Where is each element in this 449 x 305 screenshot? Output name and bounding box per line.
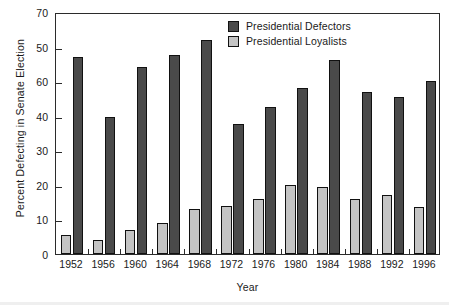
bar-loyalist-1976	[253, 199, 264, 254]
y-axis-tick	[56, 83, 62, 84]
bar-loyalist-1992	[382, 195, 393, 254]
x-axis-tick-label: 1960	[124, 258, 147, 270]
legend-label-loyalists: Presidential Loyalists	[246, 35, 347, 47]
x-axis-tick	[377, 249, 378, 254]
bar-defector-1980	[297, 88, 308, 254]
x-axis-tick	[409, 249, 410, 254]
bar-loyalist-1964	[157, 223, 168, 254]
y-axis-tick	[56, 118, 62, 119]
y-axis-tick	[56, 49, 62, 50]
x-axis-tick	[152, 249, 153, 254]
x-axis-title: Year	[55, 281, 440, 293]
x-axis-tick	[345, 249, 346, 254]
bar-loyalist-1972	[221, 206, 232, 254]
bar-defector-1960	[137, 67, 148, 254]
x-axis-tick	[184, 249, 185, 254]
x-axis-tick-label: 1984	[316, 258, 339, 270]
bar-defector-1952	[73, 57, 84, 254]
bar-defector-1984	[329, 60, 340, 254]
chart-figure: Percent Defecting in Senate Election Yea…	[0, 0, 449, 305]
bar-loyalist-1956	[93, 240, 104, 254]
x-axis-tick-label: 1992	[380, 258, 403, 270]
x-axis-tick-label: 1980	[284, 258, 307, 270]
y-axis-tick	[56, 152, 62, 153]
bar-loyalist-1952	[61, 235, 72, 254]
plot-area: Presidential Defectors Presidential Loya…	[55, 13, 440, 255]
bar-defector-1988	[362, 92, 373, 254]
x-axis-tick	[120, 249, 121, 254]
legend-item-defectors: Presidential Defectors	[228, 20, 351, 32]
legend-swatch-defectors-icon	[228, 21, 239, 32]
x-axis-tick-label: 1972	[220, 258, 243, 270]
bar-defector-1996	[426, 81, 437, 254]
bar-defector-1956	[105, 117, 116, 254]
y-axis-tick-label: 70	[22, 7, 48, 19]
x-axis-tick	[88, 249, 89, 254]
bar-loyalist-1968	[189, 209, 200, 254]
x-axis-tick	[249, 249, 250, 254]
y-axis-tick	[56, 221, 62, 222]
bar-loyalist-1988	[350, 199, 361, 254]
bar-loyalist-1980	[285, 185, 296, 254]
bar-loyalist-1960	[125, 230, 136, 254]
x-axis-tick	[313, 249, 314, 254]
y-axis-tick-label: 50	[22, 42, 48, 54]
y-axis-tick-label: 10	[22, 214, 48, 226]
x-axis-tick-label: 1996	[412, 258, 435, 270]
legend-label-defectors: Presidential Defectors	[246, 20, 351, 32]
y-axis-tick-label: 60	[22, 76, 48, 88]
x-axis-tick-label: 1952	[59, 258, 82, 270]
legend-swatch-loyalists-icon	[228, 36, 239, 47]
y-axis-tick-label: 20	[22, 180, 48, 192]
x-axis-tick-label: 1988	[348, 258, 371, 270]
x-axis-tick	[216, 249, 217, 254]
x-axis-tick-label: 1976	[252, 258, 275, 270]
x-axis-tick	[281, 249, 282, 254]
y-axis-tick	[56, 187, 62, 188]
bar-loyalist-1996	[414, 207, 425, 254]
bar-defector-1968	[201, 40, 212, 254]
x-axis-tick-label: 1956	[91, 258, 114, 270]
bar-defector-1964	[169, 55, 180, 254]
y-axis-tick-label: 0	[22, 249, 48, 261]
legend: Presidential Defectors Presidential Loya…	[228, 20, 351, 47]
bar-defector-1972	[233, 124, 244, 254]
y-axis-tick-label: 30	[22, 145, 48, 157]
legend-item-loyalists: Presidential Loyalists	[228, 35, 351, 47]
x-axis-tick-label: 1968	[188, 258, 211, 270]
bar-defector-1992	[394, 97, 405, 254]
x-axis-tick-label: 1964	[156, 258, 179, 270]
bar-loyalist-1984	[317, 187, 328, 254]
bar-defector-1976	[265, 107, 276, 254]
y-axis-tick-label: 40	[22, 111, 48, 123]
